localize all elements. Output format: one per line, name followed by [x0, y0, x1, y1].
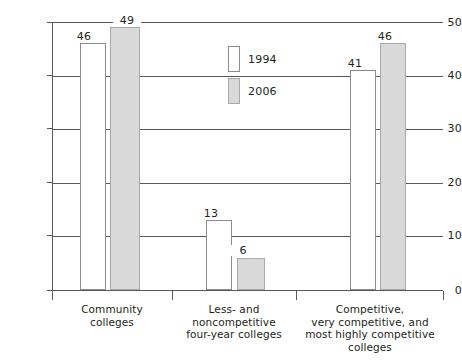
x-axis-tick-1	[172, 291, 173, 300]
bar-2006-less-noncompetitive	[237, 258, 265, 290]
bar-1994-community-colleges	[80, 43, 106, 290]
x-axis-tick-2	[296, 291, 297, 300]
y-axis-title: Percent	[0, 96, 1, 140]
legend-label-2006: 2006	[248, 86, 277, 97]
axis-baseline	[52, 290, 443, 291]
legend-label-1994: 1994	[248, 54, 277, 65]
legend-swatch-1994-icon	[228, 46, 240, 72]
value-label-2006-community-colleges: 49	[113, 15, 141, 26]
legend-item-2006: 2006	[228, 78, 277, 104]
bar-chart: Percent 50 40 30 20 10 0 46 49 13 6 41 4…	[0, 0, 462, 360]
bar-1994-competitive	[350, 70, 376, 290]
value-label-1994-less-noncompetitive: 13	[197, 208, 225, 219]
x-axis-group-label-community-colleges: Community colleges	[52, 303, 172, 328]
x-axis-group-label-competitive: Competitive, very competitive, and most …	[294, 303, 446, 353]
value-label-1994-community-colleges: 46	[70, 31, 98, 42]
gridline-50	[52, 22, 443, 23]
group-label-line: Community	[52, 303, 172, 316]
group-label-line: Competitive,	[294, 303, 446, 316]
bar-2006-community-colleges	[110, 27, 140, 290]
value-label-2006-competitive: 46	[371, 31, 399, 42]
group-label-line: colleges	[294, 341, 446, 354]
legend-swatch-2006-icon	[228, 78, 240, 104]
value-label-1994-competitive: 41	[341, 58, 369, 69]
group-label-line: four-year colleges	[167, 328, 301, 341]
bar-2006-competitive	[380, 43, 406, 290]
group-label-line: very competitive, and	[294, 316, 446, 329]
group-label-line: Less- and	[167, 303, 301, 316]
x-axis-tick-right	[443, 291, 444, 300]
group-label-line: colleges	[52, 316, 172, 329]
group-label-line: most highly competitive	[294, 328, 446, 341]
legend-item-1994: 1994	[228, 46, 277, 72]
x-axis-group-label-less-noncompetitive: Less- and noncompetitive four-year colle…	[167, 303, 301, 341]
x-axis-tick-left	[52, 291, 53, 300]
value-label-2006-less-noncompetitive: 6	[229, 245, 257, 256]
group-label-line: noncompetitive	[167, 316, 301, 329]
